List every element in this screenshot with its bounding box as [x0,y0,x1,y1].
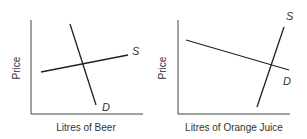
beer-x-axis-label: Litres of Beer [56,122,116,133]
oj-demand-curve [186,40,289,70]
beer-chart: S D Price Litres of Beer [11,20,143,133]
oj-demand-label: D [283,75,291,87]
beer-demand-curve [70,24,96,105]
beer-demand-label: D [102,101,110,113]
beer-supply-label: S [132,45,140,57]
supply-demand-diagrams: S D Price Litres of Beer S D Price Litre… [0,0,307,139]
oj-x-axis-label: Litres of Orange Juice [185,122,283,133]
oj-y-axis-label: Price [157,56,168,79]
orange-juice-chart: S D Price Litres of Orange Juice [157,10,294,133]
beer-y-axis-label: Price [11,56,22,79]
oj-supply-label: S [286,10,294,22]
